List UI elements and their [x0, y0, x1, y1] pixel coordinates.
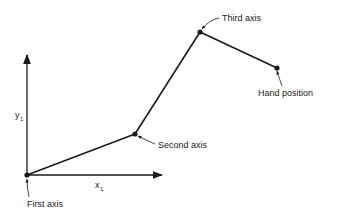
label-x-axis-subscript: 1: [100, 186, 104, 192]
joint-hand-position: [274, 65, 279, 70]
arm-link-1: [27, 134, 135, 175]
joint-first-axis: [24, 172, 29, 177]
label-third-axis: Third axis: [222, 13, 262, 23]
joint-third-axis: [197, 29, 202, 34]
label-hand-position: Hand position: [258, 88, 313, 98]
leader-second-axis: [138, 136, 155, 144]
arm-link-3: [200, 32, 277, 68]
leader-hand-position: [277, 71, 282, 86]
label-first-axis: First axis: [27, 199, 64, 209]
leader-third-axis: [202, 18, 219, 29]
leader-first-axis: [27, 179, 29, 197]
label-y-axis-subscript: 1: [20, 116, 24, 122]
joint-second-axis: [132, 131, 137, 136]
label-second-axis: Second axis: [158, 140, 208, 150]
robot-arm-diagram: Third axis Hand position Second axis Fir…: [0, 0, 339, 217]
arm-link-2: [135, 32, 200, 134]
